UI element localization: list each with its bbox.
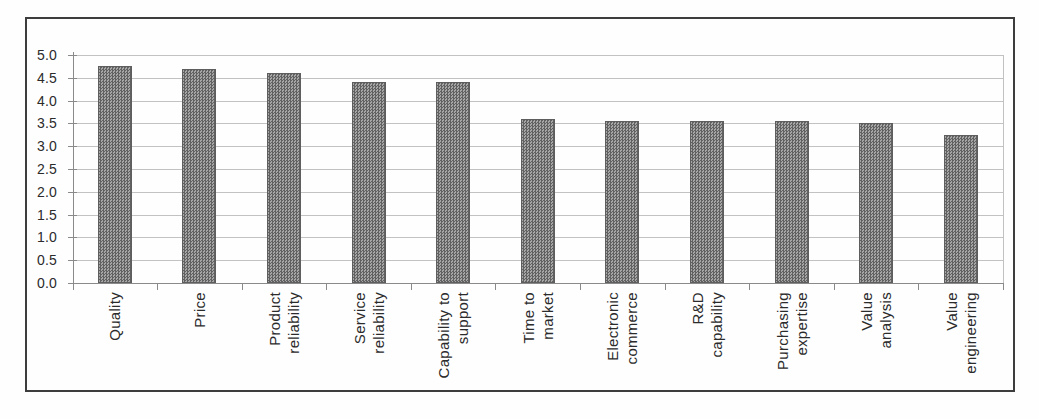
x-category-label-value-engineering: Valueengineering xyxy=(942,292,980,387)
bar-price xyxy=(182,69,216,283)
y-tick-3.0 xyxy=(68,146,77,147)
x-tick-8 xyxy=(749,283,750,290)
x-category-label-line: Product xyxy=(265,292,284,387)
bar-purchasing-expertise xyxy=(775,121,809,283)
x-category-label-line: Quality xyxy=(105,292,124,387)
bar-value-analysis xyxy=(859,123,893,283)
x-category-label-value-analysis: Valueanalysis xyxy=(857,292,895,387)
x-tick-0 xyxy=(73,283,74,290)
x-category-label-line: support xyxy=(453,292,472,387)
y-tick-label-1.5: 1.5 xyxy=(19,206,57,224)
y-tick-2.0 xyxy=(68,192,77,193)
y-tick-label-5.0: 5.0 xyxy=(19,46,57,64)
x-category-label-line: Electronic xyxy=(603,292,622,387)
x-category-label-line: engineering xyxy=(961,292,980,387)
x-category-label-line: Service xyxy=(350,292,369,387)
x-category-label-randd-capability: R&Dcapability xyxy=(688,292,726,387)
x-category-label-line: Time to xyxy=(519,292,538,387)
figure-canvas: 0.00.51.01.52.02.53.03.54.04.55.0Quality… xyxy=(0,0,1039,419)
y-tick-5.0 xyxy=(68,55,77,56)
x-tick-6 xyxy=(580,283,581,290)
x-tick-7 xyxy=(665,283,666,290)
x-tick-2 xyxy=(242,283,243,290)
x-tick-9 xyxy=(834,283,835,290)
y-tick-3.5 xyxy=(68,123,77,124)
x-category-label-line: Value xyxy=(857,292,876,387)
y-axis-line xyxy=(73,52,74,283)
x-category-label-time-to-market: Time tomarket xyxy=(519,292,557,387)
x-category-label-line: Price xyxy=(190,292,209,387)
bar-electronic-commerce xyxy=(605,121,639,283)
y-tick-2.5 xyxy=(68,169,77,170)
x-category-label-product-reliability: Productreliability xyxy=(265,292,303,387)
bar-randd-capability xyxy=(690,121,724,283)
y-tick-label-4.5: 4.5 xyxy=(19,69,57,87)
bar-service-reliability xyxy=(352,82,386,283)
y-tick-4.5 xyxy=(68,78,77,79)
bar-capability-to-support xyxy=(436,82,470,283)
x-tick-1 xyxy=(157,283,158,290)
y-tick-label-1.0: 1.0 xyxy=(19,228,57,246)
bar-value-engineering xyxy=(944,135,978,283)
x-category-label-price: Price xyxy=(190,292,209,387)
x-category-label-line: capability xyxy=(707,292,726,387)
bar-product-reliability xyxy=(267,73,301,283)
bar-quality xyxy=(98,66,132,283)
x-category-label-service-reliability: Servicereliability xyxy=(350,292,388,387)
y-tick-label-3.5: 3.5 xyxy=(19,114,57,132)
y-tick-0.5 xyxy=(68,260,77,261)
y-tick-label-0.5: 0.5 xyxy=(19,251,57,269)
x-tick-10 xyxy=(918,283,919,290)
x-category-label-purchasing-expertise: Purchasingexpertise xyxy=(773,292,811,387)
x-tick-5 xyxy=(495,283,496,290)
x-category-label-line: reliability xyxy=(284,292,303,387)
y-tick-label-0.0: 0.0 xyxy=(19,274,57,292)
x-category-label-line: R&D xyxy=(688,292,707,387)
x-category-label-line: Purchasing xyxy=(773,292,792,387)
x-tick-11 xyxy=(1003,283,1004,290)
x-axis-line xyxy=(73,283,1004,284)
x-category-label-capability-to-support: Capability tosupport xyxy=(434,292,472,387)
bar-time-to-market xyxy=(521,119,555,283)
plot-area-right-edge xyxy=(1003,55,1004,283)
y-tick-1.5 xyxy=(68,215,77,216)
y-tick-label-2.5: 2.5 xyxy=(19,160,57,178)
y-tick-label-2.0: 2.0 xyxy=(19,183,57,201)
x-category-label-line: expertise xyxy=(792,292,811,387)
x-category-label-quality: Quality xyxy=(105,292,124,387)
x-tick-4 xyxy=(411,283,412,290)
y-tick-1.0 xyxy=(68,237,77,238)
y-tick-label-4.0: 4.0 xyxy=(19,92,57,110)
x-category-label-line: commerce xyxy=(622,292,641,387)
x-category-label-line: Capability to xyxy=(434,292,453,387)
x-category-label-line: reliability xyxy=(369,292,388,387)
y-tick-4.0 xyxy=(68,101,77,102)
gridline-5.0 xyxy=(73,55,1004,56)
x-category-label-line: Value xyxy=(942,292,961,387)
y-tick-label-3.0: 3.0 xyxy=(19,137,57,155)
x-category-label-electronic-commerce: Electroniccommerce xyxy=(603,292,641,387)
x-tick-3 xyxy=(326,283,327,290)
bar-chart: 0.00.51.01.52.02.53.03.54.04.55.0Quality… xyxy=(0,0,1039,419)
x-category-label-line: market xyxy=(538,292,557,387)
x-category-label-line: analysis xyxy=(876,292,895,387)
